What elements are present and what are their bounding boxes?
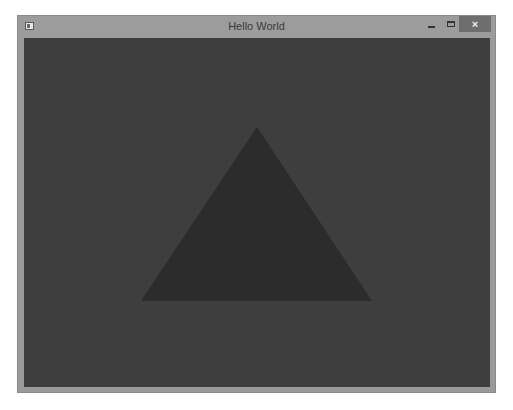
maximize-icon (447, 21, 455, 27)
triangle-shape (141, 127, 372, 301)
render-canvas[interactable] (24, 38, 490, 387)
minimize-icon (428, 26, 435, 28)
triangle-graphic (24, 38, 490, 387)
close-icon: × (472, 18, 478, 30)
title-bar[interactable]: Hello World × (18, 16, 495, 38)
close-button[interactable]: × (459, 16, 491, 32)
app-window: Hello World × (17, 15, 496, 393)
maximize-button[interactable] (444, 16, 458, 32)
minimize-button[interactable] (418, 16, 444, 32)
